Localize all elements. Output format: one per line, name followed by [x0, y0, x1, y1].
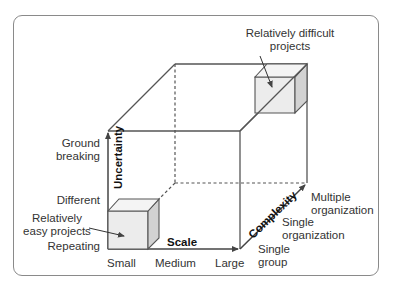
callout-difficult-projects: Relatively difficult projects [225, 27, 355, 53]
label-ground: Ground [40, 137, 100, 150]
callout-easy-projects: Relatively easy projects [16, 212, 98, 238]
label-medium: Medium [155, 257, 196, 270]
callout-easy-line1: Relatively [16, 212, 98, 225]
label-multiple-organization: Multiple organization [311, 191, 374, 217]
label-small: Small [107, 257, 136, 270]
axis-title-scale: Scale [167, 236, 197, 249]
label-repeating: Repeating [30, 240, 100, 253]
label-ground-breaking: Ground breaking [40, 137, 100, 163]
label-large: Large [215, 257, 244, 270]
label-multi-org-line1: Multiple [311, 191, 374, 204]
callout-difficult-line1: Relatively difficult [225, 27, 355, 40]
label-single-group: Single group [258, 243, 290, 269]
label-multi-org-line2: organization [311, 204, 374, 217]
callout-easy-line2: easy projects [16, 225, 98, 238]
label-single-org-line2: organization [282, 229, 345, 242]
label-single-group-line1: Single [258, 243, 290, 256]
difficult-projects-cube [240, 64, 307, 131]
axis-title-uncertainty: Uncertainty [112, 119, 125, 189]
label-different: Different [40, 194, 100, 207]
label-single-org-line1: Single [282, 216, 345, 229]
label-single-organization: Single organization [282, 216, 345, 242]
easy-projects-cube [108, 199, 159, 249]
callout-difficult-line2: projects [225, 40, 355, 53]
label-single-group-line2: group [258, 256, 290, 269]
label-breaking: breaking [40, 150, 100, 163]
